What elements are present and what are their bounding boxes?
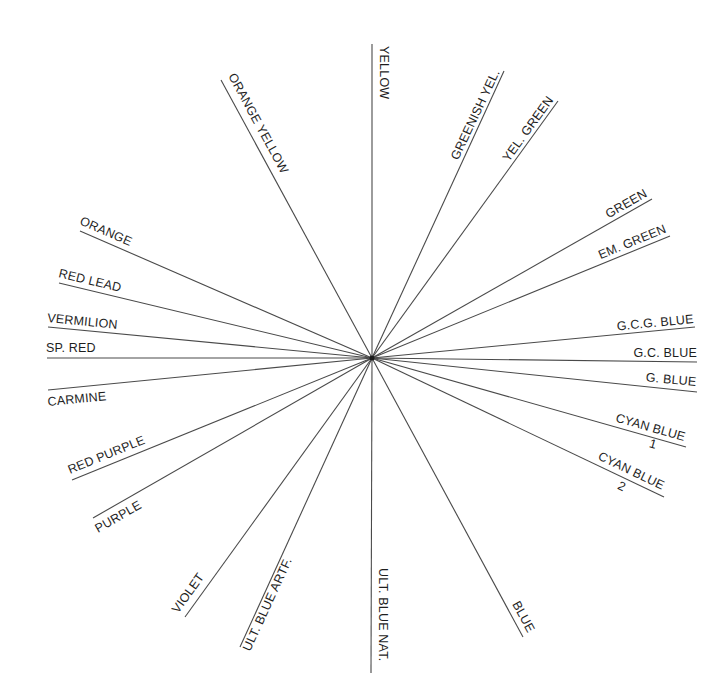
ray-sublabel-cyan-blue-1: 1: [648, 436, 659, 451]
ray-sublabel-cyan-blue-2: 2: [615, 479, 627, 495]
ray-line-cyan-blue-2: [372, 358, 664, 497]
ray-label-yel-green: YEL. GREEN: [500, 94, 557, 165]
ray-label-greenish-yel: GREENISH YEL.: [448, 67, 503, 162]
ray-label-ult-blue-nat: ULT. BLUE NAT.: [376, 568, 390, 661]
ray-label-g-blue: G. BLUE: [645, 370, 697, 389]
ray-line-orange-yellow: [221, 80, 372, 358]
ray-label-ult-blue-artf: ULT. BLUE ARTF.: [240, 555, 295, 653]
ray-label-cyan-blue-2: CYAN BLUE: [596, 449, 667, 493]
ray-label-vermilion: VERMILION: [47, 311, 119, 332]
ray-label-gc-blue: G.C. BLUE: [633, 346, 697, 360]
color-radial-diagram: YELLOWGREENISH YEL.YEL. GREENGREENEM. GR…: [0, 0, 719, 698]
ray-label-carmine: CARMINE: [47, 389, 107, 409]
ray-line-cyan-blue-1: [372, 358, 686, 447]
ray-line-red-purple: [72, 358, 372, 480]
ray-line-vermilion: [48, 327, 372, 358]
ray-label-orange-yellow: ORANGE YELLOW: [225, 71, 291, 176]
ray-label-violet: VIOLET: [169, 570, 207, 615]
ray-label-yellow: YELLOW: [377, 46, 391, 99]
ray-label-em-green: EM. GREEN: [596, 222, 668, 262]
ray-line-orange: [80, 231, 372, 358]
ray-line-greenish-yel: [372, 71, 504, 358]
ray-line-carmine: [48, 358, 372, 390]
ray-label-gcg-blue: G.C.G. BLUE: [616, 312, 694, 333]
ray-label-sp-red: SP. RED: [46, 341, 96, 355]
ray-line-blue: [372, 358, 523, 637]
ray-label-green: GREEN: [603, 186, 649, 221]
ray-line-green: [372, 199, 652, 358]
ray-label-blue: BLUE: [509, 599, 537, 635]
ray-line-ult-blue-nat: [371, 358, 372, 673]
center-hub: [370, 356, 375, 361]
ray-label-orange: ORANGE: [78, 214, 134, 249]
